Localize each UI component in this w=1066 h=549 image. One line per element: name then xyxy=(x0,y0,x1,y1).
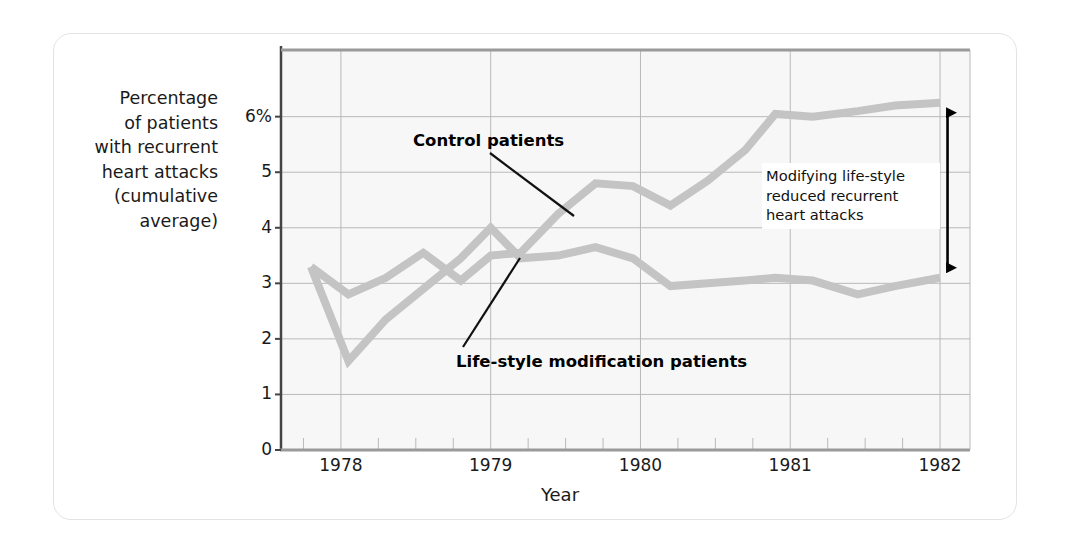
x-axis-title: Year xyxy=(541,484,579,505)
x-tick-label: 1979 xyxy=(469,455,512,475)
y-tick-label: 6% xyxy=(212,106,272,126)
x-tick-label: 1982 xyxy=(918,455,961,475)
x-tick-label: 1980 xyxy=(619,455,662,475)
x-tick-label: 1978 xyxy=(319,455,362,475)
y-tick-label: 0 xyxy=(212,439,272,459)
y-tick-label: 3 xyxy=(212,272,272,292)
y-axis-title: Percentage of patients with recurrent he… xyxy=(86,86,218,233)
chart-figure: Percentage of patients with recurrent he… xyxy=(0,0,1066,549)
y-tick-label: 4 xyxy=(212,217,272,237)
y-tick-label: 5 xyxy=(212,161,272,181)
y-tick-labels: 0123456% xyxy=(212,0,272,549)
annotation-callout: Modifying life-style reduced recurrent h… xyxy=(762,163,940,229)
y-tick-label: 1 xyxy=(212,383,272,403)
line-chart xyxy=(0,0,1066,549)
series-label-control: Control patients xyxy=(413,131,564,150)
y-tick-label: 2 xyxy=(212,328,272,348)
series-label-lifestyle: Life-style modification patients xyxy=(456,352,747,371)
x-tick-label: 1981 xyxy=(769,455,812,475)
